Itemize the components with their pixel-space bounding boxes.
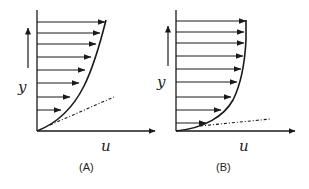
panel-b-velocity-arrows bbox=[176, 21, 246, 123]
panel-a-velocity-arrows bbox=[37, 22, 105, 110]
panel-a-y-label: y bbox=[17, 78, 27, 96]
panel-b-tangent-line bbox=[200, 119, 270, 126]
velocity-profile-diagram: y u (A) y u (B) bbox=[0, 0, 309, 189]
panel-b-u-label: u bbox=[239, 137, 249, 155]
panel-a: y u (A) bbox=[17, 10, 155, 173]
panel-a-tangent-line bbox=[50, 97, 114, 125]
panel-b: y u (B) bbox=[156, 10, 295, 173]
panel-b-caption: (B) bbox=[216, 161, 231, 173]
panel-a-caption: (A) bbox=[79, 161, 94, 173]
panel-a-profile-curve bbox=[37, 20, 106, 131]
panel-b-profile-curve bbox=[176, 20, 246, 131]
panel-a-u-label: u bbox=[101, 137, 111, 155]
panel-b-y-label: y bbox=[156, 73, 166, 91]
